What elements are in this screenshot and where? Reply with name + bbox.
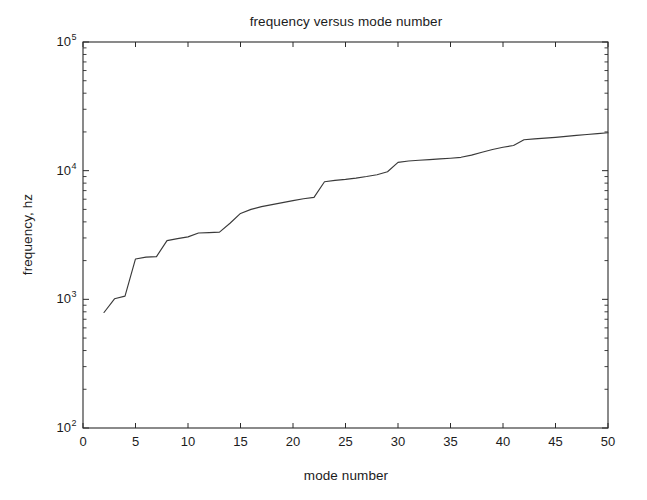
x-tick-label: 25 <box>326 434 366 449</box>
x-tick-label: 10 <box>168 434 208 449</box>
chart-title: frequency versus mode number <box>83 14 609 29</box>
chart-plot-area <box>0 0 647 500</box>
y-tick-label: 104 <box>30 162 76 178</box>
x-axis-label: mode number <box>83 468 609 483</box>
x-tick-label: 15 <box>221 434 261 449</box>
x-tick-label: 30 <box>378 434 418 449</box>
x-tick-label: 35 <box>431 434 471 449</box>
y-axis-tick-labels: 102103104105 <box>24 0 76 500</box>
x-tick-label: 20 <box>273 434 313 449</box>
x-tick-label: 40 <box>483 434 523 449</box>
x-tick-label: 5 <box>116 434 156 449</box>
x-tick-label: 50 <box>588 434 628 449</box>
y-tick-label: 102 <box>30 419 76 435</box>
y-tick-label: 103 <box>30 290 76 306</box>
figure-canvas: frequency versus mode number mode number… <box>0 0 647 500</box>
x-tick-label: 45 <box>536 434 576 449</box>
y-tick-label: 105 <box>30 33 76 49</box>
